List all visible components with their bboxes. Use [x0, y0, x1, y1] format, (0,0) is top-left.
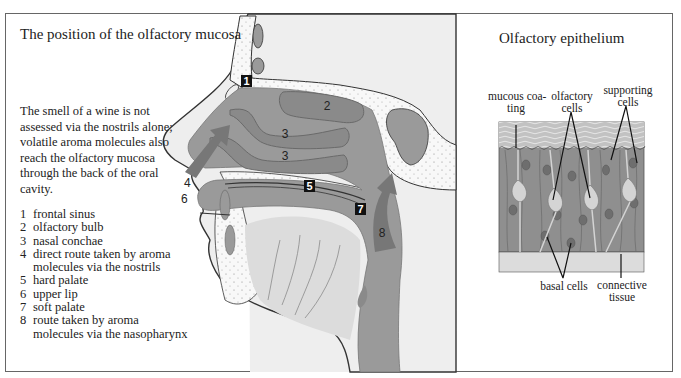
marker-2: 2 [324, 99, 331, 113]
legend-item: 7soft palate [20, 301, 187, 314]
marker-4: 4 [184, 176, 191, 190]
label-mucous-coating: mucous coa- ting [488, 90, 544, 114]
label-basal-cells: basal cells [536, 280, 592, 292]
legend-item: 1frontal sinus [20, 208, 187, 221]
marker-8: 8 [379, 226, 386, 240]
marker-7: 7 [355, 203, 366, 215]
legend-list: 1frontal sinus 2olfactory bulb 3nasal co… [20, 208, 187, 341]
legend-item: 5hard palate [20, 274, 187, 287]
label-connective-tissue: connective tissue [594, 279, 650, 303]
legend-item: 8route taken by aroma [20, 314, 187, 327]
marker-5: 5 [304, 180, 315, 192]
left-panel-title: The position of the olfactory mucosa [20, 26, 241, 43]
legend-item: molecules via the nasopharynx [20, 328, 187, 341]
right-panel-title: Olfactory epithelium [499, 30, 624, 47]
svg-text:1: 1 [243, 75, 249, 87]
marker-3a: 3 [282, 127, 289, 141]
legend-item: 4direct route taken by aroma [20, 248, 187, 261]
legend-item: 6upper lip [20, 288, 187, 301]
olfactory-epithelium-illustration [499, 106, 645, 278]
legend-item: 2olfactory bulb [20, 221, 187, 234]
svg-text:5: 5 [306, 180, 312, 192]
label-supporting-cells: supporting cells [600, 84, 656, 108]
marker-3b: 3 [282, 149, 289, 163]
legend-item: molecules via the nostrils [20, 261, 187, 274]
label-olfactory-cells: olfactory cells [548, 90, 596, 114]
svg-text:7: 7 [357, 203, 363, 215]
legend-item: 3nasal conchae [20, 235, 187, 248]
marker-1: 1 [241, 75, 252, 87]
caption-text: The smell of a wine is not assessed via … [20, 104, 180, 197]
marker-6: 6 [181, 192, 188, 206]
